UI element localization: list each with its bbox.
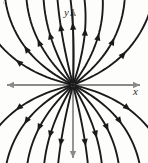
trajectory (75, 88, 103, 163)
trajectory-arrowhead (16, 103, 24, 110)
phase-portrait-figure: y x (0, 0, 148, 163)
x-axis-label: x (133, 86, 138, 97)
trajectories-group (0, 0, 148, 163)
trajectory-curve (43, 88, 71, 163)
trajectory (75, 0, 103, 83)
trajectory (74, 0, 88, 82)
y-axis-arrow-down (70, 151, 76, 158)
trajectory-arrowhead (16, 60, 24, 67)
trajectory-arrowhead (82, 28, 88, 36)
x-axis-arrow-left (7, 82, 14, 88)
y-axis-label: y (64, 7, 69, 18)
trajectory-curve (75, 0, 103, 83)
equilibrium-point (71, 83, 75, 87)
phase-portrait-canvas (0, 0, 148, 163)
trajectory-curve (75, 88, 103, 163)
trajectory-arrowhead (123, 103, 131, 110)
trajectory (43, 88, 71, 163)
trajectory-arrowhead (70, 22, 76, 30)
scan-artifact-mark (3, 1, 5, 4)
